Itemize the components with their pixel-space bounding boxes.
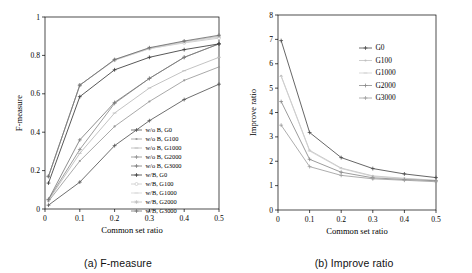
series-line-3: [281, 102, 436, 181]
legend-item-3: G2000: [359, 81, 396, 90]
y-tick-label: 0.6: [31, 89, 41, 98]
legend-label: w/B, G2000: [146, 198, 177, 205]
y-tick-label: 0: [36, 205, 40, 214]
series-markers-3: [47, 42, 221, 201]
x-tick-label: 0.5: [431, 215, 441, 224]
chart-b-series: [279, 39, 438, 184]
legend-item-9: w/B, G3000: [131, 207, 177, 214]
legend-item-4: w/o B, G3000: [131, 162, 182, 169]
legend-label: w/B, G0: [146, 171, 168, 178]
series-line-9: [48, 35, 219, 176]
y-tick-label: 4: [269, 108, 273, 117]
legend-item-6: w/B, G100: [131, 180, 174, 187]
panel-b-improve-ratio: 01234567800.10.20.30.40.5 G0G100G1000G20…: [236, 0, 472, 273]
y-tick-label: 1: [269, 181, 273, 190]
x-tick-label: 0: [276, 215, 280, 224]
x-tick-label: 0.2: [110, 214, 120, 223]
chart-b-y-axis-title: Improve ratio: [248, 89, 258, 136]
legend-label: w/B, G100: [146, 180, 174, 187]
legend-marker: [135, 200, 139, 204]
chart-a-legend: w/o B, G0w/o B, G100w/o B, G1000w/o B, G…: [131, 126, 182, 214]
chart-a-y-axis-title: F-measure: [14, 95, 24, 131]
x-tick-label: 0.4: [179, 214, 189, 223]
y-tick-label: 0.8: [31, 51, 41, 60]
x-tick-label: 0.3: [145, 214, 155, 223]
series-markers-4: [47, 42, 221, 201]
x-tick-label: 0.1: [305, 215, 315, 224]
legend-item-2: G1000: [359, 68, 396, 77]
series-markers-1: [47, 66, 220, 203]
legend-item-8: w/B, G2000: [131, 198, 177, 205]
legend-label: w/B, G3000: [146, 207, 177, 214]
legend-label: w/B, G1000: [146, 189, 177, 196]
legend-label: w/o B, G3000: [146, 162, 182, 169]
series-markers-2: [279, 76, 438, 180]
chart-a-series: [47, 33, 221, 207]
legend-marker: [364, 96, 368, 100]
chart-a-axes: [42, 17, 219, 212]
panel-b-caption: (b) Improve ratio: [236, 257, 472, 269]
y-tick-label: 0.2: [31, 166, 41, 175]
legend-marker: [364, 46, 368, 50]
x-tick-label: 0: [43, 214, 47, 223]
plot-frame: [45, 17, 219, 209]
series-line-0: [281, 41, 436, 178]
legend-item-4: G3000: [359, 93, 396, 102]
legend-marker: [135, 138, 137, 140]
panel-a-f-measure: 00.20.40.60.8100.10.20.30.40.5 w/o B, G0…: [0, 0, 236, 273]
y-tick-label: 7: [269, 35, 273, 44]
x-tick-label: 0.3: [368, 215, 378, 224]
series-line-2: [281, 76, 436, 180]
y-tick-label: 5: [269, 84, 273, 93]
x-tick-label: 0.2: [336, 215, 346, 224]
series-line-1: [48, 67, 219, 201]
chart-b-legend: G0G100G1000G2000G3000: [359, 43, 396, 102]
series-line-2: [48, 57, 219, 200]
series-markers-1: [280, 75, 437, 182]
x-tick-label: 0.4: [400, 215, 410, 224]
y-tick-label: 6: [269, 59, 273, 68]
x-tick-label: 0.1: [75, 214, 85, 223]
legend-marker: [135, 209, 139, 213]
y-tick-label: 2: [269, 157, 273, 166]
chart-b-axes: [275, 15, 436, 213]
legend-marker: [364, 84, 368, 88]
legend-item-1: w/o B, G100: [131, 135, 178, 142]
chart-a-svg: 00.20.40.60.8100.10.20.30.40.5 w/o B, G0…: [0, 0, 236, 250]
legend-label: G2000: [376, 81, 396, 90]
legend-label: w/o B, G0: [146, 126, 172, 133]
chart-b-svg: 01234567800.10.20.30.40.5 G0G100G1000G20…: [236, 0, 472, 250]
legend-item-0: w/o B, G0: [131, 126, 172, 133]
legend-label: w/o B, G1000: [146, 144, 182, 151]
legend-item-3: w/o B, G2000: [131, 153, 182, 160]
legend-item-5: w/B, G0: [131, 171, 167, 178]
legend-marker: [135, 173, 139, 177]
legend-label: G1000: [376, 68, 396, 77]
series-markers-0: [279, 39, 438, 180]
y-tick-label: 8: [269, 11, 273, 20]
y-tick-label: 3: [269, 132, 273, 141]
y-tick-label: 0: [269, 206, 273, 215]
y-tick-label: 1: [36, 13, 40, 22]
legend-marker: [364, 59, 366, 61]
series-line-8: [48, 36, 219, 176]
series-markers-2: [47, 57, 221, 200]
legend-item-1: G100: [359, 56, 392, 65]
chart-b-x-axis-title: Common set ratio: [326, 226, 388, 236]
legend-marker: [135, 164, 139, 168]
chart-a-x-axis-title: Common set ratio: [101, 225, 163, 235]
chart-b-tick-labels: 01234567800.10.20.30.40.5: [269, 11, 441, 224]
legend-label: G3000: [376, 93, 396, 102]
legend-item-7: w/B, G1000: [131, 189, 177, 196]
legend-marker: [135, 183, 138, 186]
series-line-7: [48, 37, 219, 176]
series-line-1: [281, 76, 436, 180]
legend-label: w/o B, G2000: [146, 153, 182, 160]
legend-label: w/o B, G100: [146, 135, 179, 142]
panel-a-caption: (a) F-measure: [0, 257, 236, 269]
legend-marker: [135, 155, 139, 159]
y-tick-label: 0.4: [31, 128, 41, 137]
figure-container: 00.20.40.60.8100.10.20.30.40.5 w/o B, G0…: [0, 0, 472, 273]
legend-item-0: G0: [359, 43, 385, 52]
legend-label: G0: [376, 43, 385, 52]
